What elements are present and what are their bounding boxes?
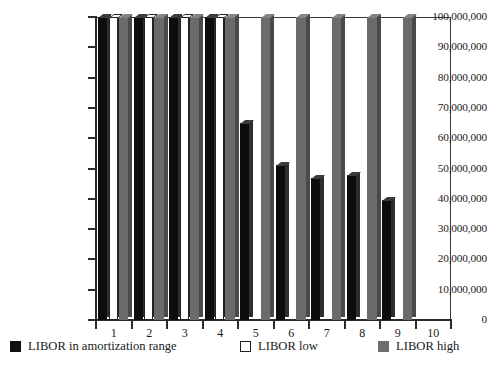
bar-face <box>134 17 143 320</box>
legend-item: LIBOR in amortization range <box>10 340 177 353</box>
bar <box>154 17 163 320</box>
bar <box>332 17 341 320</box>
x-axis-tick-label: 8 <box>347 326 377 340</box>
bar-side <box>412 14 416 317</box>
bar <box>215 17 224 320</box>
x-axis-tick-label: 2 <box>134 326 164 340</box>
y-axis-tick <box>88 107 97 109</box>
x-axis-tick-label: 10 <box>418 326 448 340</box>
y-axis-tick <box>88 16 97 18</box>
x-axis-tick <box>95 321 97 329</box>
bar-face <box>403 17 412 320</box>
bar-face <box>180 17 189 320</box>
bar <box>225 17 234 320</box>
bar-side <box>341 14 345 317</box>
y-axis-tick <box>88 228 97 230</box>
y-axis-tick <box>88 46 97 48</box>
bar <box>311 178 320 320</box>
x-axis-tick-label: 3 <box>170 326 200 340</box>
x-axis-tick-label: 4 <box>205 326 235 340</box>
bar-face <box>332 17 341 320</box>
bar-side <box>356 172 360 317</box>
bar <box>205 17 214 320</box>
bar-side <box>235 14 239 317</box>
legend-swatch-black <box>10 341 21 352</box>
bar-side <box>306 14 310 317</box>
bar-face <box>347 175 356 320</box>
bar-face <box>225 17 234 320</box>
bar-face <box>119 17 128 320</box>
bar-face <box>240 123 249 320</box>
bar-side <box>249 120 253 317</box>
bar-side <box>285 162 289 317</box>
x-axis-tick <box>237 321 239 329</box>
bar-chart-figure: 010,000,00020,000,00030,000,00040,000,00… <box>0 0 487 374</box>
x-axis-tick <box>273 321 275 329</box>
x-axis-tick-label: 1 <box>99 326 129 340</box>
bar-face <box>296 17 305 320</box>
x-axis-tick <box>166 321 168 329</box>
bar <box>382 200 391 320</box>
bar <box>169 17 178 320</box>
bar-face <box>144 17 153 320</box>
legend-label: LIBOR low <box>258 340 318 353</box>
bar <box>190 17 199 320</box>
bar <box>276 165 285 320</box>
legend-swatch-white <box>240 341 251 352</box>
bar-side <box>270 14 274 317</box>
bar-face <box>367 17 376 320</box>
x-axis-tick <box>131 321 133 329</box>
bar-face <box>98 17 107 320</box>
bar <box>347 175 356 320</box>
bar <box>367 17 376 320</box>
bar-face <box>276 165 285 320</box>
bar <box>119 17 128 320</box>
bar-face <box>154 17 163 320</box>
bar <box>109 17 118 320</box>
x-axis-tick-label: 9 <box>383 326 413 340</box>
bar-face <box>311 178 320 320</box>
bar <box>240 123 249 320</box>
bar <box>180 17 189 320</box>
bar <box>144 17 153 320</box>
legend-swatch-gray <box>378 341 389 352</box>
y-axis-tick <box>88 77 97 79</box>
x-axis-tick <box>415 321 417 329</box>
x-axis-tick-label: 6 <box>276 326 306 340</box>
x-axis-tick <box>379 321 381 329</box>
chart-legend: LIBOR in amortization rangeLIBOR lowLIBO… <box>0 340 487 364</box>
bar-side <box>377 14 381 317</box>
bar-side <box>320 175 324 317</box>
bar <box>261 17 270 320</box>
bar <box>98 17 107 320</box>
bar-side <box>128 14 132 317</box>
bar-face <box>169 17 178 320</box>
legend-label: LIBOR in amortization range <box>28 340 177 353</box>
x-axis-tick <box>202 321 204 329</box>
legend-label: LIBOR high <box>396 340 459 353</box>
legend-item: LIBOR low <box>240 340 318 353</box>
x-axis-tick <box>450 321 452 329</box>
bar-side <box>199 14 203 317</box>
bar-face <box>382 200 391 320</box>
bar-face <box>261 17 270 320</box>
bar-side <box>391 197 395 317</box>
bar <box>134 17 143 320</box>
bar-face <box>109 17 118 320</box>
bar <box>403 17 412 320</box>
bar <box>296 17 305 320</box>
y-axis-tick <box>88 168 97 170</box>
y-axis-tick <box>88 137 97 139</box>
y-axis-tick <box>88 289 97 291</box>
bar-face <box>205 17 214 320</box>
bar-face <box>215 17 224 320</box>
y-axis-tick <box>88 258 97 260</box>
bar-face <box>190 17 199 320</box>
x-axis-tick <box>308 321 310 329</box>
x-axis-tick-label: 5 <box>241 326 271 340</box>
x-axis-tick <box>344 321 346 329</box>
x-axis-tick-label: 7 <box>312 326 342 340</box>
legend-item: LIBOR high <box>378 340 459 353</box>
y-axis-tick <box>88 198 97 200</box>
bar-side <box>164 14 168 317</box>
